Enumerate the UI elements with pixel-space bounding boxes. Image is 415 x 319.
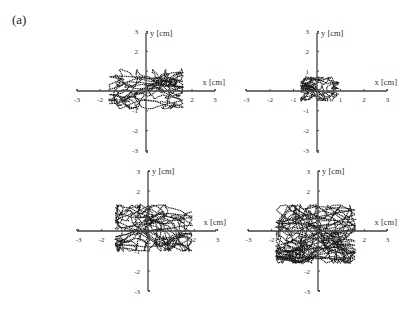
y-tick-label: -3 [304, 288, 310, 296]
trajectory-plot-bottom-right: -3-2-1123321-1-2-3x [cm]y [cm] [0, 0, 415, 319]
y-axis-label: y [cm] [322, 166, 345, 176]
x-tick-label: -1 [292, 236, 298, 244]
x-tick-label: -2 [269, 236, 275, 244]
x-tick-label: 3 [386, 236, 390, 244]
y-tick-label: 2 [307, 188, 311, 196]
y-tick-label: -2 [304, 268, 310, 276]
y-tick-label: -1 [304, 248, 310, 256]
x-tick-label: 2 [363, 236, 367, 244]
trajectory-path [276, 205, 355, 263]
x-tick-label: -3 [246, 236, 252, 244]
y-tick-label: 1 [307, 208, 311, 216]
x-tick-label: 1 [339, 236, 343, 244]
x-axis-label: x [cm] [375, 217, 398, 227]
y-tick-label: 3 [307, 168, 311, 176]
axes [248, 171, 387, 291]
